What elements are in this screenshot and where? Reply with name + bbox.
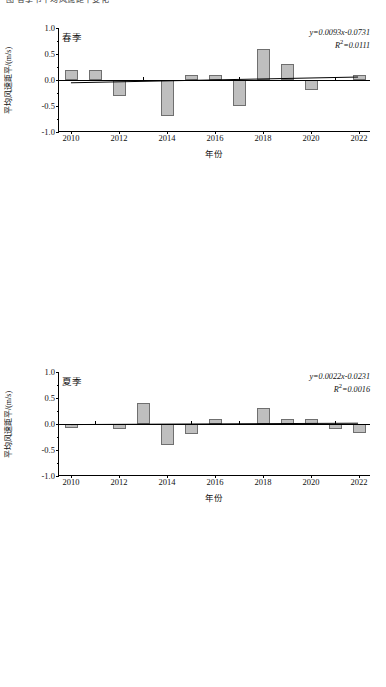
y-tick-label: 0.0	[44, 420, 55, 429]
x-tick-label: 2020	[303, 134, 320, 143]
y-tick-mark	[56, 476, 60, 477]
x-tick-mark	[71, 131, 72, 134]
x-tick-mark	[263, 475, 264, 478]
regression-annotation: y=0.0022x-0.0231R2=0.0016	[309, 371, 370, 395]
regression-annotation: y=0.0093x-0.0731R2=0.0111	[309, 27, 370, 51]
season-label: 春季	[62, 30, 82, 44]
y-tick-label: 0.5	[44, 50, 55, 59]
x-tick-label: 2018	[255, 478, 272, 487]
y-tick-label: 0.5	[44, 394, 55, 403]
season-label: 夏季	[62, 374, 82, 388]
x-tick-mark	[119, 475, 120, 478]
x-tick-label: 2022	[351, 134, 368, 143]
x-tick-mark	[359, 131, 360, 134]
r-squared-number: =0.0016	[342, 385, 370, 394]
x-tick-label: 2014	[159, 478, 176, 487]
y-tick-label: -1.0	[42, 128, 55, 137]
x-tick-label: 2010	[63, 478, 80, 487]
x-tick-label: 2010	[63, 134, 80, 143]
x-tick-label: 2012	[111, 134, 128, 143]
x-tick-label: 2012	[111, 478, 128, 487]
y-tick-label: -0.5	[42, 102, 55, 111]
y-tick-label: 1.0	[44, 368, 55, 377]
x-tick-mark	[263, 131, 264, 134]
x-tick-mark	[311, 475, 312, 478]
chart-panel: 平均风速距平/(m/s)1.00.50.0-0.5-1.020102012201…	[0, 0, 386, 172]
y-axis-title: 平均风速距平/(m/s)	[2, 372, 14, 476]
x-tick-mark	[359, 475, 360, 478]
x-axis-title: 年份	[58, 147, 370, 159]
y-tick-mark	[56, 132, 60, 133]
y-axis-title-text: 平均风速距平/(m/s)	[3, 46, 14, 113]
x-tick-label: 2014	[159, 134, 176, 143]
chart-panel: 平均风速距平/(m/s)1.00.50.0-0.5-1.020102012201…	[0, 344, 386, 516]
r-squared-value: R2=0.0111	[309, 38, 370, 51]
x-tick-mark	[119, 131, 120, 134]
x-tick-mark	[71, 475, 72, 478]
regression-equation: y=0.0093x-0.0731	[309, 27, 370, 38]
x-tick-mark	[215, 475, 216, 478]
seasonal-chart-panels: 平均风速距平/(m/s)1.00.50.0-0.5-1.020102012201…	[0, 0, 386, 687]
x-tick-label: 2016	[207, 478, 224, 487]
x-tick-mark	[167, 475, 168, 478]
r-squared-number: =0.0111	[343, 41, 370, 50]
y-tick-label: -0.5	[42, 446, 55, 455]
x-tick-label: 2018	[255, 134, 272, 143]
x-tick-mark	[167, 131, 168, 134]
y-axis-title: 平均风速距平/(m/s)	[2, 28, 14, 132]
r-squared-value: R2=0.0016	[309, 382, 370, 395]
x-tick-mark	[311, 131, 312, 134]
y-tick-label: -1.0	[42, 472, 55, 481]
x-tick-mark	[215, 131, 216, 134]
x-tick-label: 2016	[207, 134, 224, 143]
y-axis-title-text: 平均风速距平/(m/s)	[3, 390, 14, 457]
y-tick-label: 0.0	[44, 76, 55, 85]
x-axis-title: 年份	[58, 491, 370, 503]
x-tick-label: 2022	[351, 478, 368, 487]
y-tick-label: 1.0	[44, 24, 55, 33]
x-tick-label: 2020	[303, 478, 320, 487]
regression-equation: y=0.0022x-0.0231	[309, 371, 370, 382]
